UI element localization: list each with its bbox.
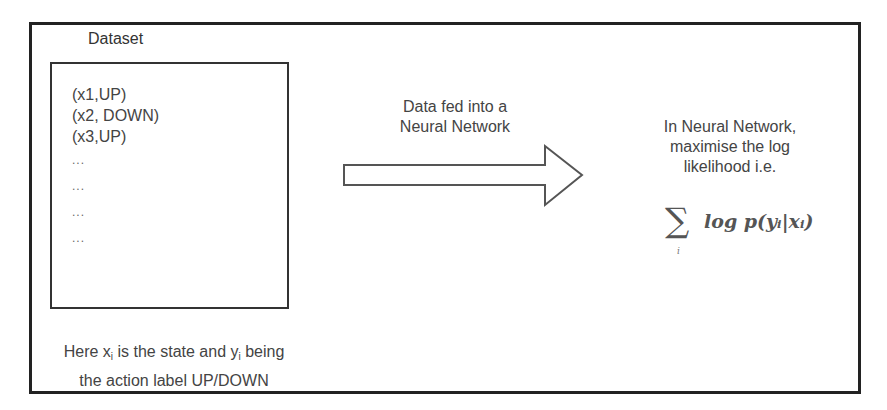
log-likelihood-formula: log p(yᵢ|xᵢ) xyxy=(704,210,813,232)
note-line-2: the action label UP/DOWN xyxy=(29,369,319,393)
dataset-box: (x1,UP) (x2, DOWN) (x3,UP) ... ... ... .… xyxy=(50,62,289,309)
dataset-ellipsis: ... xyxy=(72,173,159,199)
dataset-row: (x1,UP) xyxy=(72,84,159,105)
dataset-ellipsis: ... xyxy=(72,225,159,251)
summation-index: i xyxy=(677,246,680,256)
summation-symbol: ∑ xyxy=(665,200,689,240)
dataset-rows: (x1,UP) (x2, DOWN) (x3,UP) ... ... ... .… xyxy=(72,84,159,251)
right-arrow-icon xyxy=(340,142,590,212)
dataset-ellipsis: ... xyxy=(72,147,159,173)
neural-network-description: In Neural Network, maximise the log like… xyxy=(600,117,860,177)
dataset-title: Dataset xyxy=(88,30,208,48)
arrow-label: Data fed into a Neural Network xyxy=(355,97,555,137)
note-line-1: Here xi is the state and yi being xyxy=(29,340,319,369)
dataset-ellipsis: ... xyxy=(72,199,159,225)
dataset-note: Here xi is the state and yi being the ac… xyxy=(29,340,319,393)
dataset-row: (x3,UP) xyxy=(72,126,159,147)
dataset-row: (x2, DOWN) xyxy=(72,105,159,126)
